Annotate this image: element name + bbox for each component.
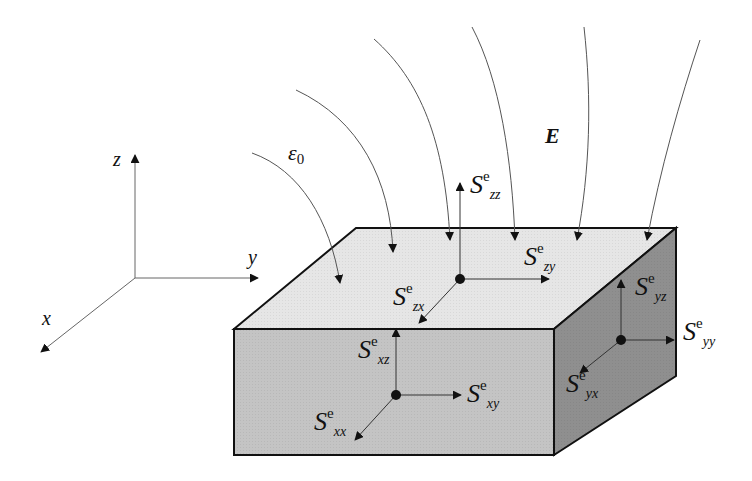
diagram-canvas: z y x ε0 E Sezz Sezy Sezx Sexz Sexy Sexx xyxy=(0,0,752,481)
epsilon-label: ε0 xyxy=(288,140,304,167)
coordinate-axes xyxy=(41,155,258,352)
stress-tensor-diagram: z y x ε0 E Sezz Sezy Sezx Sexz Sexy Sexx xyxy=(0,0,752,481)
syy-label: Seyy xyxy=(683,315,716,349)
field-line xyxy=(647,40,700,240)
x-axis xyxy=(41,278,135,352)
front-face-origin-dot xyxy=(391,390,401,400)
y-axis-label: y xyxy=(246,246,257,269)
field-line xyxy=(472,27,515,240)
field-line xyxy=(577,27,589,240)
side-face-origin-dot xyxy=(616,335,626,345)
x-axis-label: x xyxy=(41,307,51,329)
top-face-origin-dot xyxy=(455,274,465,284)
z-axis-label: z xyxy=(112,148,121,170)
electric-field-label: E xyxy=(544,123,560,148)
field-line xyxy=(374,39,450,240)
dielectric-block xyxy=(234,228,676,455)
szz-label: Sezz xyxy=(470,168,501,202)
